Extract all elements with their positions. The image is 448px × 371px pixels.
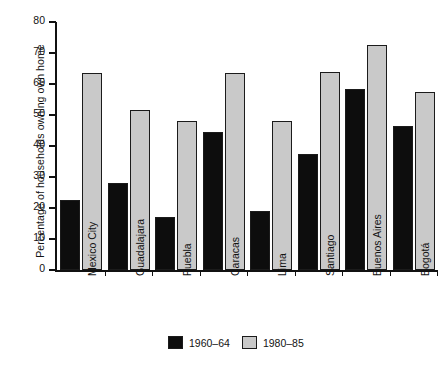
y-tick-50: 50 xyxy=(49,114,56,115)
x-axis-label-lima: Lima xyxy=(276,253,288,276)
x-axis-label-caracas: Caracas xyxy=(229,237,241,276)
y-tick-40: 40 xyxy=(49,145,56,146)
x-tick xyxy=(152,270,153,276)
bar xyxy=(108,183,128,270)
y-tick-label-70: 70 xyxy=(33,45,45,57)
x-tick xyxy=(390,270,391,276)
y-tick-10: 10 xyxy=(49,238,56,239)
bar xyxy=(203,132,223,270)
x-axis-label-santiago: Santiago xyxy=(324,235,336,276)
legend-label: 1980–85 xyxy=(263,337,304,349)
y-tick-label-0: 0 xyxy=(39,262,45,274)
y-tick-70: 70 xyxy=(49,52,56,53)
y-tick-20: 20 xyxy=(49,207,56,208)
y-tick-0: 0 xyxy=(49,269,56,270)
y-tick-label-80: 80 xyxy=(33,14,45,26)
x-tick xyxy=(437,270,438,276)
x-axis-label-buenos-aires: Buenos Aires xyxy=(371,214,383,276)
y-tick-label-10: 10 xyxy=(33,231,45,243)
bar-chart: Percentage of households owning own home… xyxy=(0,0,448,371)
x-tick xyxy=(200,270,201,276)
x-axis-label-puebla: Puebla xyxy=(181,243,193,276)
legend-item: 1960–64 xyxy=(168,336,230,349)
bar-group xyxy=(154,22,198,270)
bar xyxy=(60,200,80,270)
y-tick-label-50: 50 xyxy=(33,107,45,119)
x-axis-label-guadalajara: Guadalajara xyxy=(134,219,146,276)
black-square-swatch xyxy=(168,336,183,349)
bar xyxy=(155,217,175,270)
bar xyxy=(250,211,270,270)
y-tick-label-30: 30 xyxy=(33,169,45,181)
y-tick-60: 60 xyxy=(49,83,56,84)
bar xyxy=(345,89,365,270)
y-tick-80: 80 xyxy=(49,21,56,22)
legend: 1960–641980–85 xyxy=(168,336,304,349)
x-tick xyxy=(105,270,106,276)
bar-group xyxy=(202,22,246,270)
legend-label: 1960–64 xyxy=(189,337,230,349)
bar-group xyxy=(249,22,293,270)
bar xyxy=(393,126,413,270)
x-axis-label-mexico-city: Mexico City xyxy=(86,222,98,276)
x-tick xyxy=(342,270,343,276)
y-tick-30: 30 xyxy=(49,176,56,177)
y-tick-label-60: 60 xyxy=(33,76,45,88)
x-axis-label-bogotá: Bogotá xyxy=(419,243,431,276)
y-tick-label-20: 20 xyxy=(33,200,45,212)
bar-group xyxy=(392,22,436,270)
bar xyxy=(298,154,318,270)
x-tick xyxy=(247,270,248,276)
bar xyxy=(272,121,292,270)
x-tick xyxy=(295,270,296,276)
legend-item: 1980–85 xyxy=(242,336,304,349)
y-tick-label-40: 40 xyxy=(33,138,45,150)
gray-square-swatch xyxy=(242,336,257,349)
bar-group xyxy=(297,22,341,270)
